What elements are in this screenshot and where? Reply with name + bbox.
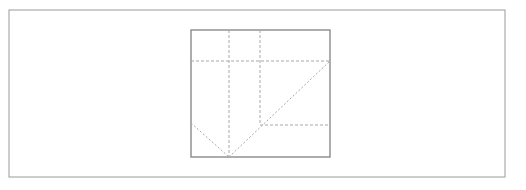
figure-container: [0, 0, 526, 190]
geometric-diagram: [0, 0, 526, 190]
figure-background: [0, 0, 526, 190]
